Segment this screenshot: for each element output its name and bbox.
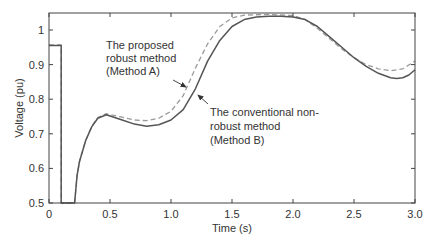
x-tick-label: 0	[46, 208, 52, 220]
y-tick-label: 0.5	[29, 197, 44, 209]
arrow-icon	[198, 95, 208, 104]
x-tick-label: 2.5	[346, 208, 361, 220]
y-tick-label: 0.9	[29, 59, 44, 71]
annotation-b-line-2: robust method	[210, 120, 280, 132]
annotation-method-b: The conventional non- robust method (Met…	[198, 95, 319, 146]
y-tick-label: 0.6	[29, 162, 44, 174]
annotation-b-line-3: (Method B)	[210, 134, 264, 146]
annotation-a-line-1: The proposed	[106, 39, 174, 51]
x-axis-label: Time (s)	[212, 222, 252, 234]
y-tick-label: 0.8	[29, 93, 44, 105]
y-tick-label: 1	[38, 24, 44, 36]
x-tick-label: 2.0	[285, 208, 300, 220]
annotation-a-line-2: robust method	[106, 52, 176, 64]
x-tick-label: 1.0	[163, 208, 178, 220]
annotation-method-a: The proposed robust method (Method A)	[106, 39, 186, 87]
x-tick-label: 0.5	[102, 208, 117, 220]
voltage-chart: 00.51.01.52.02.53.00.50.60.70.80.91 Time…	[0, 0, 438, 249]
y-axis-label: Voltage (pu)	[13, 78, 25, 137]
x-tick-label: 1.5	[224, 208, 239, 220]
x-tick-label: 3.0	[407, 208, 422, 220]
annotation-a-line-3: (Method A)	[106, 65, 160, 77]
y-tick-label: 0.7	[29, 128, 44, 140]
arrow-icon	[173, 80, 186, 87]
annotation-b-line-1: The conventional non-	[210, 106, 319, 118]
